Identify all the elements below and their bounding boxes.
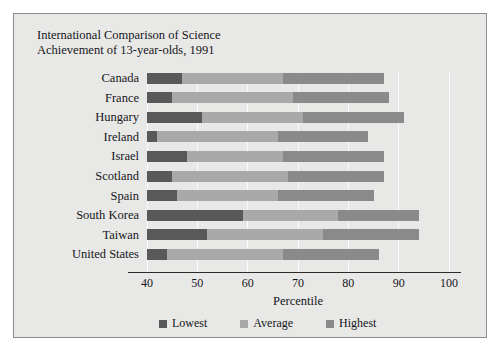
gridline bbox=[398, 71, 399, 272]
bar-segment bbox=[147, 151, 187, 162]
chart-panel: International Comparison of Science Achi… bbox=[13, 13, 487, 338]
plot-area: CanadaFranceHungaryIrelandIsraelScotland… bbox=[14, 14, 488, 339]
x-axis-tick-label: 100 bbox=[440, 276, 458, 291]
x-axis-tick-label: 40 bbox=[141, 276, 153, 291]
x-axis-line bbox=[128, 272, 461, 273]
x-axis-tick-label: 90 bbox=[393, 276, 405, 291]
category-label: Scotland bbox=[39, 169, 139, 184]
bar-segment bbox=[147, 171, 172, 182]
bar-segment bbox=[147, 249, 167, 260]
bar-segment bbox=[147, 92, 172, 103]
legend-label: Average bbox=[253, 316, 293, 331]
bar-segment bbox=[147, 112, 202, 123]
x-axis-tick-label: 80 bbox=[342, 276, 354, 291]
legend-item: Highest bbox=[326, 316, 376, 331]
bar-segment bbox=[147, 229, 207, 240]
x-axis-label: Percentile bbox=[273, 294, 323, 309]
category-label: United States bbox=[39, 247, 139, 262]
category-label: Israel bbox=[39, 149, 139, 164]
legend-label: Highest bbox=[339, 316, 376, 331]
category-label: Ireland bbox=[39, 129, 139, 144]
category-label: South Korea bbox=[39, 208, 139, 223]
x-axis-tick-label: 60 bbox=[242, 276, 254, 291]
bar-segment bbox=[147, 249, 283, 260]
bar-segment bbox=[147, 131, 278, 142]
bar-segment bbox=[147, 210, 243, 221]
x-axis-tick-label: 70 bbox=[292, 276, 304, 291]
legend-swatch-icon bbox=[240, 320, 248, 328]
legend-item: Average bbox=[240, 316, 293, 331]
category-label: Hungary bbox=[39, 110, 139, 125]
legend-swatch-icon bbox=[159, 320, 167, 328]
bar-segment bbox=[147, 73, 182, 84]
bar-segment bbox=[147, 190, 177, 201]
category-label: Spain bbox=[39, 188, 139, 203]
legend-label: Lowest bbox=[172, 316, 207, 331]
chart-legend: LowestAverageHighest bbox=[159, 316, 402, 331]
legend-swatch-icon bbox=[326, 320, 334, 328]
category-label: Taiwan bbox=[39, 227, 139, 242]
bar-segment bbox=[147, 131, 157, 142]
legend-item: Lowest bbox=[159, 316, 207, 331]
category-label: Canada bbox=[39, 71, 139, 86]
category-label: France bbox=[39, 90, 139, 105]
x-axis-tick-label: 50 bbox=[191, 276, 203, 291]
gridline bbox=[449, 71, 450, 272]
